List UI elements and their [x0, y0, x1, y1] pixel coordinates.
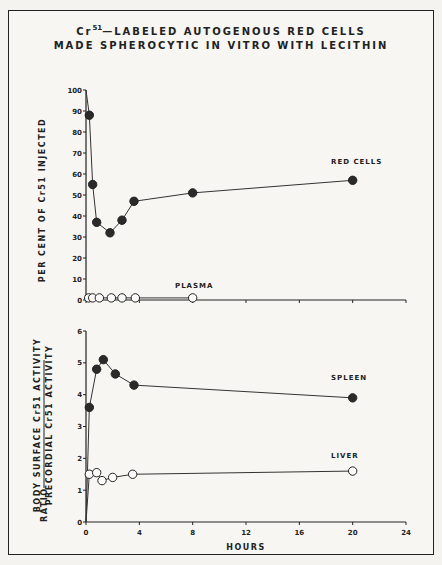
data-point — [92, 218, 100, 226]
data-point — [108, 473, 116, 481]
y-tick-label: 100 — [67, 87, 82, 95]
x-tick-label: 8 — [190, 529, 195, 537]
label-red-cells: RED CELLS — [331, 158, 382, 166]
y-tick-label: 80 — [72, 129, 82, 137]
upper-chart: 0102030405060708090100 — [67, 87, 406, 305]
label-liver: LIVER — [331, 452, 359, 460]
data-point — [118, 294, 126, 302]
data-point — [95, 294, 103, 302]
y-tick-label: 1 — [77, 487, 82, 495]
data-point — [130, 197, 138, 205]
x-tick-label: 20 — [348, 529, 358, 537]
y-tick-label: 4 — [77, 391, 82, 399]
y-tick-label: 5 — [77, 359, 82, 367]
series-line — [86, 90, 353, 233]
y-tick-label: 30 — [72, 234, 82, 242]
y-tick-label: 6 — [77, 328, 82, 336]
y-tick-label: 2 — [77, 455, 82, 463]
upper-y-axis-title: PER CENT OF Cr51 INJECTED — [38, 118, 47, 282]
y-tick-label: 60 — [72, 171, 82, 179]
y-tick-label: 20 — [72, 255, 82, 263]
data-point — [85, 111, 93, 119]
data-point — [99, 355, 107, 363]
data-point — [348, 176, 356, 184]
data-point — [106, 229, 114, 237]
label-plasma: PLASMA — [175, 282, 213, 290]
data-point — [92, 365, 100, 373]
y-tick-label: 0 — [77, 519, 82, 527]
y-tick-label: 10 — [72, 276, 82, 284]
data-point — [107, 294, 115, 302]
data-point — [85, 403, 93, 411]
lower-y-axis-denominator: PRECORDIAL Cr51 ACTIVITY — [45, 345, 54, 506]
x-tick-label: 4 — [137, 529, 142, 537]
y-tick-label: 90 — [72, 108, 82, 116]
series-line — [86, 360, 353, 522]
y-tick-label: 3 — [77, 423, 82, 431]
data-point — [348, 394, 356, 402]
y-tick-label: 50 — [72, 192, 82, 200]
data-point — [128, 470, 136, 478]
x-tick-label: 12 — [241, 529, 251, 537]
x-axis-title: HOURS — [226, 543, 265, 552]
x-tick-label: 16 — [294, 529, 304, 537]
label-spleen: SPLEEN — [331, 374, 367, 382]
data-point — [118, 216, 126, 224]
data-point — [98, 476, 106, 484]
y-tick-label: 40 — [72, 213, 82, 221]
x-tick-label: 24 — [401, 529, 411, 537]
series-line — [86, 471, 353, 522]
lower-y-axis-numerator: BODY SURFACE Cr51 ACTIVITY — [33, 338, 42, 512]
data-point — [131, 294, 139, 302]
data-point — [188, 189, 196, 197]
data-point — [130, 381, 138, 389]
chart-canvas: 0102030405060708090100012345604812162024… — [0, 0, 442, 565]
data-point — [188, 294, 196, 302]
lower-y-axis-prefix: RATIO — [40, 488, 49, 522]
data-point — [111, 370, 119, 378]
data-point — [348, 467, 356, 475]
y-tick-label: 70 — [72, 150, 82, 158]
data-point — [92, 468, 100, 476]
y-tick-label: 0 — [77, 297, 82, 305]
data-point — [88, 180, 96, 188]
lower-chart: 012345604812162024 — [77, 328, 411, 538]
x-tick-label: 0 — [84, 529, 89, 537]
